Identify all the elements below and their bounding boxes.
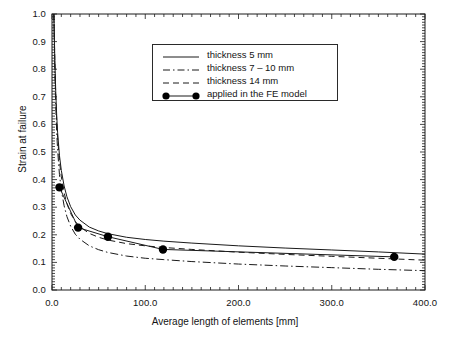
x-axis-tick-label: 100.0 xyxy=(125,297,165,308)
x-axis-title: Average length of elements [mm] xyxy=(0,316,450,327)
y-axis-tick-label: 0.5 xyxy=(10,146,46,157)
y-axis-tick-label: 0.0 xyxy=(10,284,46,295)
y-axis-tick-label: 0.7 xyxy=(10,91,46,102)
legend-swatch-dashdot-icon xyxy=(159,62,203,74)
legend-label-thickness-14mm: thickness 14 mm xyxy=(207,75,278,86)
x-axis-tick-label: 200.0 xyxy=(219,297,259,308)
x-axis-tick-label: 0.0 xyxy=(32,297,72,308)
legend-swatch-solid-icon xyxy=(159,49,203,61)
data-point-marker xyxy=(74,223,82,231)
series-line-fe-model xyxy=(59,187,394,257)
y-axis-tick-label: 0.9 xyxy=(10,36,46,47)
y-axis-tick-label: 1.0 xyxy=(10,8,46,19)
legend-swatch-marker-icon xyxy=(159,88,203,100)
data-point-marker xyxy=(104,233,112,241)
chart-legend: thickness 5 mm thickness 7 – 10 mm thick… xyxy=(152,44,338,101)
legend-item-thickness-5mm: thickness 5 mm xyxy=(153,48,337,61)
y-axis-tick-label: 0.6 xyxy=(10,118,46,129)
y-axis-tick-label: 0.2 xyxy=(10,229,46,240)
y-axis-title: Strain at failure xyxy=(17,105,28,172)
data-point-marker xyxy=(159,245,167,253)
y-axis-tick-label: 0.3 xyxy=(10,201,46,212)
legend-label-thickness-7-10mm: thickness 7 – 10 mm xyxy=(207,62,294,73)
chart-figure: Strain at failure Average length of elem… xyxy=(0,0,450,341)
legend-item-thickness-7-10mm: thickness 7 – 10 mm xyxy=(153,61,337,74)
data-point-marker xyxy=(390,253,398,261)
x-axis-tick-label: 300.0 xyxy=(312,297,352,308)
legend-label-fe-model: applied in the FE model xyxy=(207,88,307,99)
y-axis-tick-label: 0.1 xyxy=(10,256,46,267)
legend-swatch-dashed-icon xyxy=(159,75,203,87)
y-axis-tick-label: 0.8 xyxy=(10,63,46,74)
legend-item-thickness-14mm: thickness 14 mm xyxy=(153,74,337,87)
legend-label-thickness-5mm: thickness 5 mm xyxy=(207,49,273,60)
y-axis-tick-label: 0.4 xyxy=(10,174,46,185)
data-point-marker xyxy=(55,183,63,191)
legend-item-fe-model: applied in the FE model xyxy=(153,87,337,100)
x-axis-tick-label: 400.0 xyxy=(405,297,445,308)
y-axis-title-wrapper: Strain at failure xyxy=(12,92,30,186)
